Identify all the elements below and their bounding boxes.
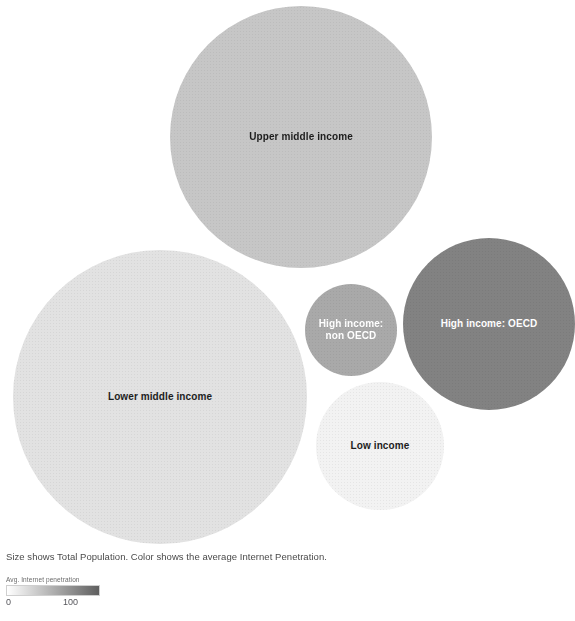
color-legend: Avg. Internet penetration 0 100 bbox=[6, 576, 206, 609]
bubble-texture-overlay bbox=[403, 238, 575, 410]
bubble-texture-overlay bbox=[316, 382, 444, 510]
bubble-upper-middle-income[interactable]: Upper middle income bbox=[170, 6, 432, 268]
color-legend-min-label: 0 bbox=[6, 597, 11, 607]
bubble-texture-overlay bbox=[170, 6, 432, 268]
color-legend-gradient bbox=[6, 585, 100, 596]
color-legend-max-label: 100 bbox=[63, 597, 78, 607]
bubble-texture-overlay bbox=[305, 284, 397, 376]
bubble-low-income[interactable]: Low income bbox=[316, 382, 444, 510]
bubble-texture-overlay bbox=[13, 250, 307, 544]
bubble-chart-canvas: Upper middle income Lower middle income … bbox=[0, 0, 575, 540]
color-legend-ticks: 0 100 bbox=[6, 597, 102, 609]
chart-caption: Size shows Total Population. Color shows… bbox=[6, 551, 327, 562]
color-legend-title: Avg. Internet penetration bbox=[6, 576, 206, 583]
bubble-high-income-non-oecd[interactable]: High income: non OECD bbox=[305, 284, 397, 376]
bubble-high-income-oecd[interactable]: High income: OECD bbox=[403, 238, 575, 410]
bubble-lower-middle-income[interactable]: Lower middle income bbox=[13, 250, 307, 544]
